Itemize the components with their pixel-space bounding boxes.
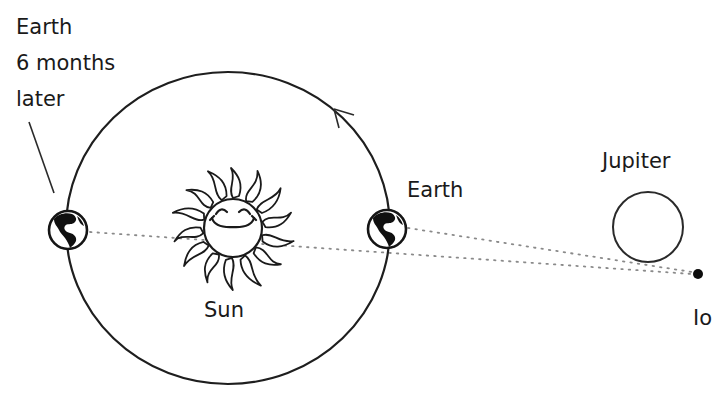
orbit-diagram: Earth 6 months later Earth Sun Jupiter I… [0, 0, 722, 399]
sun-icon [173, 167, 294, 290]
jupiter-planet [613, 192, 683, 262]
earth-6-months-later-globe-icon [49, 211, 87, 249]
label-earth: Earth [407, 178, 463, 202]
label-io: Io [693, 306, 712, 330]
label-earth-later-line-3: later [16, 87, 65, 111]
label-leader-line [29, 122, 54, 193]
earth-globe-icon [368, 210, 406, 248]
label-sun: Sun [204, 298, 244, 322]
label-jupiter: Jupiter [600, 149, 671, 173]
label-earth-later-line-2: 6 months [16, 51, 115, 75]
label-earth-later-line-1: Earth [16, 15, 72, 39]
io-moon [693, 269, 703, 279]
